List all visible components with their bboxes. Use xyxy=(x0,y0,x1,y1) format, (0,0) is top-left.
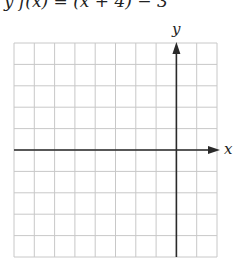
y-axis-arrow-icon xyxy=(172,42,180,54)
coordinate-grid xyxy=(0,0,239,259)
y-axis-label: y xyxy=(172,20,180,38)
axes xyxy=(14,42,220,257)
x-axis-label: x xyxy=(224,140,232,158)
x-axis-arrow-icon xyxy=(208,146,220,154)
